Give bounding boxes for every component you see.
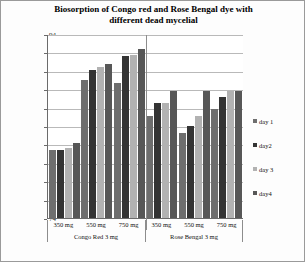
bar-group <box>48 35 81 218</box>
bar[interactable] <box>138 49 145 218</box>
legend-item[interactable]: day 1 <box>253 109 301 133</box>
bar[interactable] <box>146 116 153 218</box>
bar[interactable] <box>154 103 161 218</box>
legend-swatch-icon <box>253 119 257 123</box>
legend-label: day2 <box>259 142 272 149</box>
legend-item[interactable]: day4 <box>253 181 301 205</box>
bar[interactable] <box>179 133 186 218</box>
chart-title-line-2: different dead mycelial <box>13 15 294 26</box>
legend-item[interactable]: day 3 <box>253 157 301 181</box>
bar[interactable] <box>105 64 112 218</box>
bar[interactable] <box>187 126 194 218</box>
bar[interactable] <box>49 150 56 218</box>
legend-label: day4 <box>259 190 272 197</box>
bar[interactable] <box>203 91 210 218</box>
bar[interactable] <box>219 97 226 218</box>
legend-item[interactable]: day2 <box>253 133 301 157</box>
chart-legend: day 1day2day 3day4 <box>253 109 301 205</box>
legend-swatch-icon <box>253 167 257 171</box>
bar-group <box>81 35 114 218</box>
bar[interactable] <box>130 55 137 218</box>
bar-group <box>211 35 244 218</box>
legend-label: day 1 <box>259 118 273 125</box>
legend-swatch-icon <box>253 143 257 147</box>
x-axis-separator <box>242 220 243 242</box>
bar[interactable] <box>235 91 242 218</box>
x-axis-tick-label: 550 mg <box>178 220 211 229</box>
legend-label: day 3 <box>259 166 273 173</box>
x-axis-tick-label: 750 mg <box>210 220 243 229</box>
chart-figure: Biosorption of Congo red and Rose Bengal… <box>0 0 305 262</box>
x-axis-tick-label: 550 mg <box>80 220 113 229</box>
bar[interactable] <box>227 91 234 218</box>
bar[interactable] <box>170 91 177 218</box>
bar[interactable] <box>81 80 88 218</box>
chart-title: Biosorption of Congo red and Rose Bengal… <box>13 4 294 26</box>
bar-group <box>178 35 211 218</box>
bar[interactable] <box>89 70 96 218</box>
bar[interactable] <box>57 150 64 218</box>
bar-group <box>146 35 179 218</box>
x-axis-tick-label: 350 mg <box>145 220 178 229</box>
bar[interactable] <box>195 116 202 218</box>
bar[interactable] <box>122 56 129 218</box>
bar[interactable] <box>97 67 104 218</box>
x-axis-separator <box>145 220 146 242</box>
bar[interactable] <box>73 143 80 218</box>
bar-group <box>113 35 146 218</box>
bar[interactable] <box>162 103 169 218</box>
chart-title-line-1: Biosorption of Congo red and Rose Bengal… <box>13 4 294 15</box>
panel-divider <box>146 35 147 230</box>
x-axis-tick-label: 750 mg <box>112 220 145 229</box>
x-axis-panel-label: Congo Red 3 mg <box>47 232 145 241</box>
bar[interactable] <box>65 148 72 218</box>
x-axis-tick-label: 350 mg <box>47 220 80 229</box>
x-axis-separator <box>47 220 48 242</box>
bar[interactable] <box>211 109 218 218</box>
plot-area <box>47 35 243 219</box>
x-axis: 350 mg550 mg750 mg350 mg550 mg750 mg Con… <box>47 220 243 250</box>
x-axis-panel-label: Rose Bengal 3 mg <box>145 232 243 241</box>
legend-swatch-icon <box>253 191 257 195</box>
bar[interactable] <box>114 83 121 218</box>
